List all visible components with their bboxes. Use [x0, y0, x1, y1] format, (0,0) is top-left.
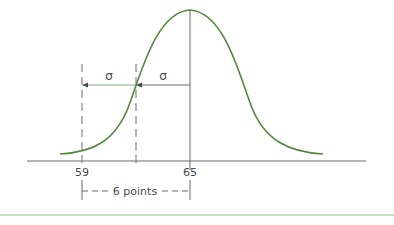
tick-label-65: 65: [183, 166, 197, 179]
tick-label-59: 59: [75, 166, 89, 179]
normal-curve: [60, 10, 323, 154]
arrowhead-icon: [82, 83, 88, 88]
sigma-label-left: σ: [105, 69, 113, 83]
normal-distribution-diagram: σ σ 59 65 6 points: [0, 0, 394, 225]
distance-label: 6 points: [113, 185, 158, 198]
sigma-label-right: σ: [159, 69, 167, 83]
